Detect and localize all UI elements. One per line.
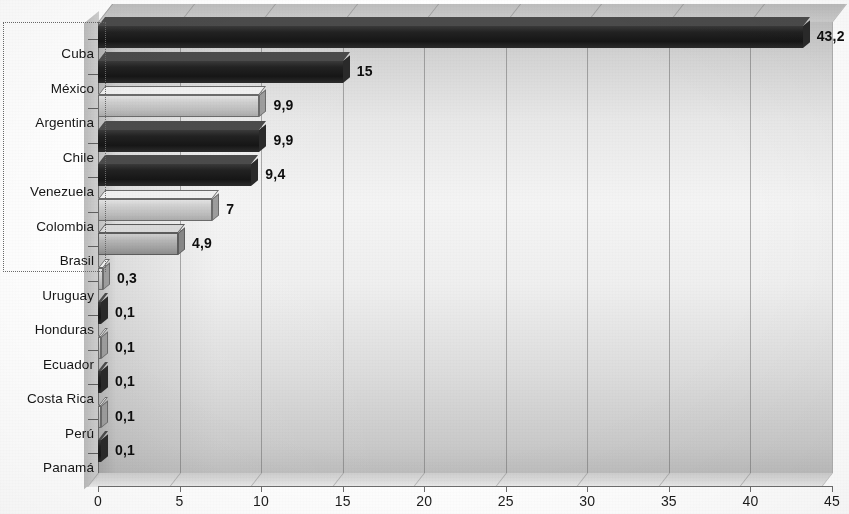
bar-front-face — [98, 268, 103, 290]
x-tick-label-10: 10 — [253, 493, 269, 509]
category-label-perú: Perú — [0, 426, 94, 441]
category-tick — [88, 315, 98, 316]
bar-costa-rica[interactable] — [98, 371, 101, 393]
gridline-45 — [832, 22, 833, 473]
gridline-15 — [343, 22, 344, 473]
category-tick — [88, 74, 98, 75]
bar-top-face — [98, 155, 258, 164]
bar-front-face — [98, 164, 251, 186]
bar-top-face — [98, 224, 185, 233]
bar-ecuador[interactable] — [98, 337, 101, 359]
x-tick-30 — [587, 486, 588, 492]
category-label-venezuela: Venezuela — [0, 184, 94, 199]
bar-brasil[interactable] — [98, 233, 178, 255]
bar-side-face — [343, 55, 350, 83]
x-tick-label-15: 15 — [335, 493, 351, 509]
category-tick — [88, 108, 98, 109]
bar-value-label: 0,1 — [115, 304, 135, 320]
x-tick-label-40: 40 — [742, 493, 758, 509]
x-axis-line — [98, 486, 832, 487]
bar-argentina[interactable] — [98, 95, 259, 117]
category-tick — [88, 384, 98, 385]
x-tick-label-0: 0 — [94, 493, 102, 509]
gridline-30 — [587, 22, 588, 473]
category-tick — [88, 246, 98, 247]
bar-top-face — [98, 17, 810, 26]
x-tick-40 — [750, 486, 751, 492]
x-tick-25 — [506, 486, 507, 492]
category-tick — [88, 143, 98, 144]
category-label-panamá: Panamá — [0, 460, 94, 475]
bar-uruguay[interactable] — [98, 268, 103, 290]
x-tick-45 — [832, 486, 833, 492]
bar-front-face — [98, 406, 101, 428]
x-tick-15 — [343, 486, 344, 492]
bar-front-face — [98, 302, 101, 324]
x-tick-20 — [424, 486, 425, 492]
bar-front-face — [98, 440, 101, 462]
bar-value-label: 9,4 — [265, 166, 285, 182]
bar-cuba[interactable] — [98, 26, 803, 48]
category-tick — [88, 350, 98, 351]
gridline-40 — [750, 22, 751, 473]
bar-value-label: 4,9 — [192, 235, 212, 251]
category-tick — [88, 453, 98, 454]
bar-front-face — [98, 95, 259, 117]
bar-méxico[interactable] — [98, 61, 343, 83]
category-tick — [88, 177, 98, 178]
bar-front-face — [98, 371, 101, 393]
category-tick — [88, 39, 98, 40]
category-label-ecuador: Ecuador — [0, 357, 94, 372]
bar-value-label: 15 — [357, 63, 373, 79]
bar-front-face — [98, 337, 101, 359]
bar-top-face — [98, 121, 267, 130]
bar-front-face — [98, 26, 803, 48]
bar-front-face — [98, 199, 212, 221]
category-label-colombia: Colombia — [0, 219, 94, 234]
x-tick-10 — [261, 486, 262, 492]
bar-chile[interactable] — [98, 130, 259, 152]
bar-value-label: 0,1 — [115, 408, 135, 424]
bar-value-label: 0,1 — [115, 442, 135, 458]
bar-front-face — [98, 61, 343, 83]
bar-front-face — [98, 130, 259, 152]
bar-chart: 43,2159,99,99,474,90,30,10,10,10,10,1 Cu… — [0, 0, 849, 514]
category-label-uruguay: Uruguay — [0, 288, 94, 303]
bar-top-face — [98, 86, 267, 95]
bar-value-label: 0,1 — [115, 373, 135, 389]
bar-top-face — [98, 190, 219, 199]
category-label-chile: Chile — [0, 150, 94, 165]
bar-value-label: 43,2 — [817, 28, 845, 44]
plot-floor-face — [87, 473, 832, 487]
category-label-brasil: Brasil — [0, 253, 94, 268]
bar-front-face — [98, 233, 178, 255]
category-label-honduras: Honduras — [0, 322, 94, 337]
x-tick-label-5: 5 — [176, 493, 184, 509]
bar-value-label: 9,9 — [273, 97, 293, 113]
category-label-argentina: Argentina — [0, 115, 94, 130]
x-tick-label-20: 20 — [416, 493, 432, 509]
category-label-costa-rica: Costa Rica — [0, 391, 94, 406]
gridline-35 — [669, 22, 670, 473]
bar-value-label: 7 — [226, 201, 234, 217]
bar-panamá[interactable] — [98, 440, 101, 462]
category-tick — [88, 212, 98, 213]
bar-perú[interactable] — [98, 406, 101, 428]
x-tick-5 — [180, 486, 181, 492]
bar-value-label: 9,9 — [273, 132, 293, 148]
category-tick — [88, 281, 98, 282]
category-label-méxico: México — [0, 81, 94, 96]
bar-honduras[interactable] — [98, 302, 101, 324]
x-tick-label-30: 30 — [579, 493, 595, 509]
gridline-20 — [424, 22, 425, 473]
x-tick-label-25: 25 — [498, 493, 514, 509]
x-tick-35 — [669, 486, 670, 492]
gridline-25 — [506, 22, 507, 473]
bar-colombia[interactable] — [98, 199, 212, 221]
bar-value-label: 0,1 — [115, 339, 135, 355]
bar-top-face — [98, 52, 350, 61]
category-label-cuba: Cuba — [0, 46, 94, 61]
category-tick — [88, 419, 98, 420]
bar-venezuela[interactable] — [98, 164, 251, 186]
x-tick-label-45: 45 — [824, 493, 840, 509]
